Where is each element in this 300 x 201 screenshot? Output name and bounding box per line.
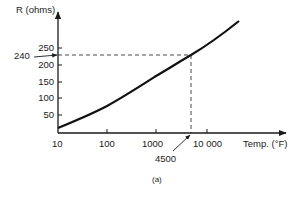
- y-axis-label: R (ohms): [16, 5, 55, 15]
- annotation-arrow-240: [34, 55, 57, 57]
- y-tick-label-150: 150: [24, 77, 54, 87]
- y-tick-label-50: 50: [24, 110, 54, 120]
- x-tick-label-10000: 10 000: [193, 139, 222, 149]
- y-tick-label-100: 100: [24, 93, 54, 103]
- x-axis-label: Temp. (°F): [243, 139, 287, 149]
- annotation-label-4500: 4500: [155, 154, 176, 164]
- figure-caption: (a): [152, 175, 162, 185]
- resistance-curve: [58, 21, 239, 128]
- x-tick-label-10: 10: [52, 139, 63, 149]
- x-tick-label-100: 100: [99, 139, 115, 149]
- annotation-label-240: 240: [14, 51, 30, 61]
- annotation-arrow-4500: [173, 135, 190, 151]
- y-tick-label-200: 200: [24, 60, 54, 70]
- x-tick-label-1000: 1000: [142, 139, 163, 149]
